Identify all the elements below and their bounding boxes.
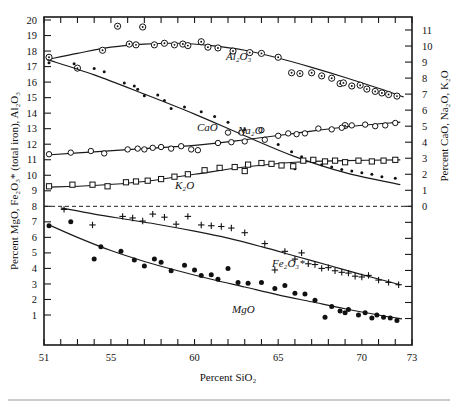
data-point xyxy=(227,121,230,124)
data-point xyxy=(125,147,130,152)
data-point xyxy=(369,316,374,321)
data-point xyxy=(381,158,386,163)
data-point xyxy=(178,144,183,149)
data-point xyxy=(277,143,280,146)
data-point xyxy=(205,44,211,50)
data-point xyxy=(199,273,204,278)
y-right-tick-label: 11 xyxy=(422,25,432,36)
data-point xyxy=(379,90,385,96)
data-point xyxy=(73,62,76,65)
data-point xyxy=(329,127,334,132)
data-point xyxy=(140,24,146,30)
data-point xyxy=(159,260,164,265)
data-point xyxy=(90,182,95,187)
y-left-tick-label: 11 xyxy=(27,154,37,165)
data-point xyxy=(322,159,327,164)
data-point xyxy=(46,54,52,60)
data-point xyxy=(225,130,230,135)
data-point xyxy=(291,164,296,169)
y-left-axis-title: Percent MgO, Fe₂O₃* (total iron), Al₂O₃ xyxy=(8,92,21,270)
data-point xyxy=(198,39,204,45)
data-point xyxy=(394,318,399,323)
data-point xyxy=(275,133,280,138)
data-point xyxy=(242,139,247,144)
data-point xyxy=(115,23,121,29)
y-right-tick-label: 8 xyxy=(422,73,427,84)
data-point xyxy=(46,152,51,157)
data-point xyxy=(329,304,334,309)
data-point xyxy=(46,184,51,189)
y-left-tick-label: 9 xyxy=(32,185,37,196)
data-point xyxy=(195,148,200,153)
data-point xyxy=(213,115,216,118)
data-point xyxy=(236,280,241,285)
y-left-tick-label: 16 xyxy=(27,77,38,88)
data-point xyxy=(88,148,93,153)
data-point xyxy=(297,70,303,76)
curve-label-k2o: K₂O xyxy=(174,179,194,191)
data-point xyxy=(381,315,386,320)
data-point xyxy=(290,150,293,153)
data-point xyxy=(217,165,222,170)
x-tick-label: 55 xyxy=(106,352,117,363)
data-point xyxy=(135,146,140,151)
data-point xyxy=(98,244,103,249)
data-point xyxy=(246,281,251,286)
data-point xyxy=(393,120,398,125)
data-point xyxy=(171,42,177,48)
data-point xyxy=(388,316,393,321)
data-point xyxy=(394,93,400,99)
data-point xyxy=(385,91,391,97)
data-point xyxy=(339,125,344,130)
y-left-tick-label: 18 xyxy=(27,46,38,57)
data-point xyxy=(302,292,307,297)
data-point xyxy=(68,219,73,224)
y-left-tick-label: 14 xyxy=(27,108,38,119)
x-tick-label: 65 xyxy=(273,352,284,363)
y-left-tick-label: 10 xyxy=(27,170,38,181)
data-point xyxy=(338,309,343,314)
data-point xyxy=(156,93,159,96)
data-point xyxy=(152,257,157,262)
harker-variation-diagram: Percent MgO, Fe₂O₃* (total iron), Al₂O₃ … xyxy=(0,0,458,408)
curve-label-fe2o3: Fe₂O₃* xyxy=(271,257,305,269)
y-right-tick-label: 5 xyxy=(422,121,427,132)
y-right-tick-label: 4 xyxy=(422,137,428,148)
data-point xyxy=(370,173,373,176)
y-right-tick-label: 9 xyxy=(422,57,427,68)
data-point xyxy=(286,131,291,136)
y-left-tick-label: 12 xyxy=(27,139,38,150)
data-point xyxy=(161,40,167,46)
data-point xyxy=(150,145,155,150)
data-point xyxy=(394,177,397,180)
data-point xyxy=(142,147,147,152)
data-point xyxy=(136,88,139,91)
y-right-tick-label: 0 xyxy=(422,201,427,212)
data-point xyxy=(245,162,250,167)
data-point xyxy=(332,158,337,163)
data-point xyxy=(151,42,157,48)
data-point xyxy=(262,137,267,142)
data-point xyxy=(282,283,287,288)
y-left-tick-label: 6 xyxy=(32,232,37,243)
data-point xyxy=(168,146,173,151)
y-right-tick-label: 7 xyxy=(422,89,427,100)
data-point xyxy=(158,176,163,181)
data-point xyxy=(360,171,363,174)
x-tick-label: 60 xyxy=(189,352,200,363)
data-point xyxy=(272,286,277,291)
y-left-tick-label: 19 xyxy=(27,30,38,41)
data-point xyxy=(340,80,346,86)
data-point xyxy=(288,70,294,76)
data-point xyxy=(340,168,343,171)
data-point xyxy=(242,168,247,173)
y-left-tick-label: 8 xyxy=(32,201,37,212)
y-left-tick-label: 1 xyxy=(32,310,37,321)
data-point xyxy=(200,110,203,113)
data-point xyxy=(372,88,378,94)
data-point xyxy=(229,140,234,145)
data-point xyxy=(215,140,220,145)
data-point xyxy=(383,123,388,128)
data-point xyxy=(105,184,110,189)
y-left-tick-label: 5 xyxy=(32,247,37,258)
